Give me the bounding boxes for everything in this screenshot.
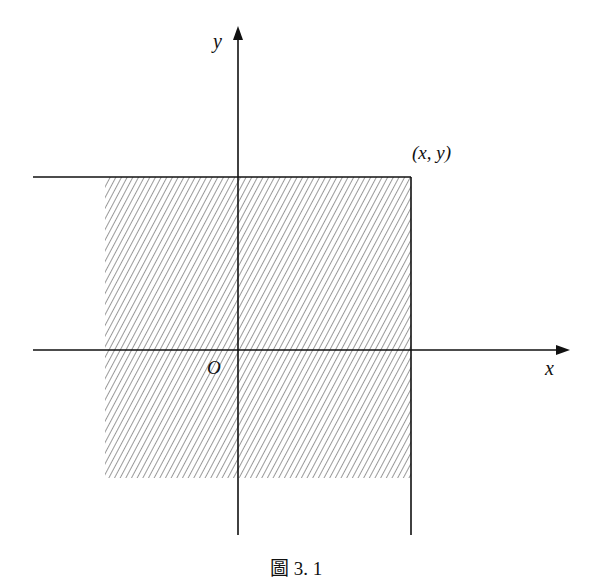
- x-axis-arrow-icon: [556, 345, 570, 355]
- y-axis-arrow-icon: [233, 26, 243, 40]
- figure-caption: 圖 3. 1: [270, 553, 322, 580]
- origin-label: O: [207, 357, 221, 379]
- point-label: (x, y): [412, 142, 451, 164]
- diagram-canvas: [0, 0, 596, 588]
- x-axis-label: x: [545, 357, 554, 380]
- hatched-region: [105, 177, 411, 478]
- y-axis-label: y: [213, 30, 222, 53]
